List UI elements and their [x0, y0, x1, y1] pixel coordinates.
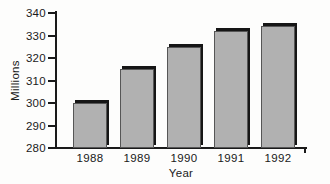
bar-1988 [73, 103, 107, 148]
y-tick [48, 12, 55, 14]
y-tick-label: 290 [13, 120, 46, 132]
x-category-label: 1992 [256, 152, 300, 165]
plot-area: 2802903003103203303401988198919901991199… [0, 0, 330, 184]
y-tick [48, 35, 55, 37]
bar-chart: Millions 2802903003103203303401988198919… [0, 0, 330, 184]
y-tick-label: 320 [13, 52, 46, 64]
y-tick [48, 80, 55, 82]
y-tick-label: 340 [13, 7, 46, 19]
y-tick [48, 147, 55, 149]
x-axis-title: Year [156, 167, 206, 180]
x-axis-end-tick [304, 147, 306, 153]
x-category-label: 1990 [162, 152, 206, 165]
y-tick-label: 310 [13, 75, 46, 87]
y-tick-label: 330 [13, 30, 46, 42]
y-tick-label: 280 [13, 142, 46, 154]
y-tick [48, 57, 55, 59]
y-axis-line [55, 11, 57, 149]
y-tick-label: 300 [13, 97, 46, 109]
bar-1990 [167, 47, 201, 148]
bar-1991 [214, 31, 248, 148]
y-tick [48, 125, 55, 127]
x-category-label: 1991 [209, 152, 253, 165]
x-category-label: 1988 [68, 152, 112, 165]
bar-1992 [261, 26, 295, 148]
x-category-label: 1989 [115, 152, 159, 165]
bar-1989 [120, 69, 154, 148]
y-tick [48, 102, 55, 104]
